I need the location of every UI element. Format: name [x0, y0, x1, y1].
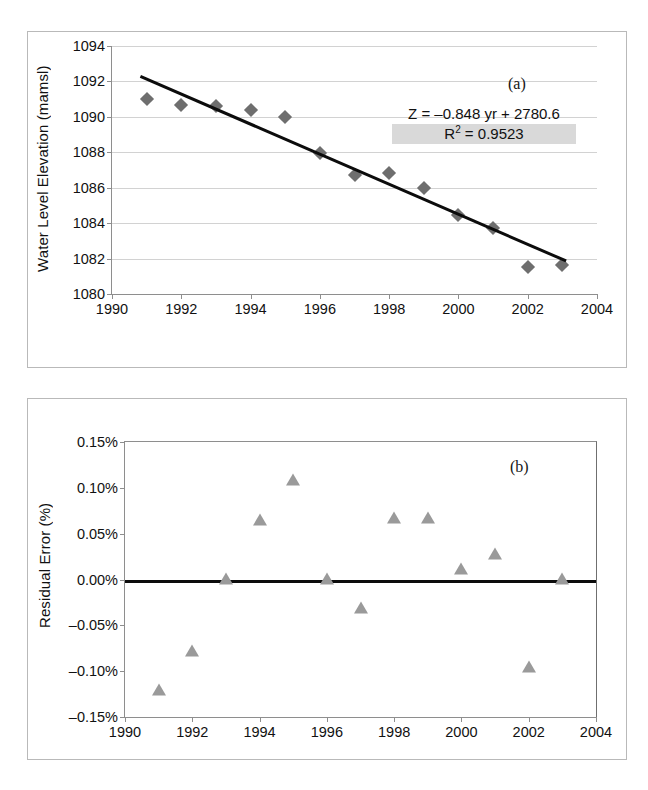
x-tick-mark: [597, 294, 598, 299]
x-tick-mark: [327, 717, 328, 722]
data-point: [522, 660, 536, 672]
data-point: [387, 512, 401, 524]
x-tick-label: 2000: [442, 301, 474, 317]
data-point: [219, 572, 233, 584]
y-tick-mark: [107, 188, 112, 189]
x-tick-mark: [192, 717, 193, 722]
data-point: [555, 572, 569, 584]
x-tick-mark: [528, 294, 529, 299]
y-tick-label: 0.00%: [77, 572, 118, 588]
data-point: [253, 513, 267, 525]
y-tick-label: 1088: [73, 144, 105, 160]
x-tick-mark: [112, 294, 113, 299]
y-tick-label: –0.05%: [69, 617, 118, 633]
x-tick-mark: [251, 294, 252, 299]
x-tick-mark: [394, 717, 395, 722]
data-point: [521, 260, 535, 274]
x-tick-label: 2004: [581, 301, 613, 317]
x-tick-label: 1998: [378, 724, 410, 740]
y-tick-label: 1084: [73, 215, 105, 231]
data-point: [354, 601, 368, 613]
regression-r-squared: R2 = 0.9523: [392, 124, 576, 144]
data-point: [185, 644, 199, 656]
panel-b-y-axis-title: Residual Error (%): [36, 440, 53, 690]
y-tick-mark: [120, 625, 125, 626]
y-tick-label: 1090: [73, 109, 105, 125]
data-point: [454, 563, 468, 575]
y-tick-label: 0.05%: [77, 526, 118, 542]
data-point: [488, 547, 502, 559]
panel-a-y-axis-title: Water Level Elevation (mamsl): [34, 44, 51, 294]
r-squared-value: = 0.9523: [461, 125, 524, 142]
data-point: [421, 512, 435, 524]
y-tick-label: –0.10%: [69, 663, 118, 679]
x-tick-label: 1992: [176, 724, 208, 740]
y-tick-mark: [107, 117, 112, 118]
y-tick-mark: [107, 223, 112, 224]
gridline: [112, 46, 597, 47]
y-tick-label: 1080: [73, 286, 105, 302]
data-point: [243, 103, 257, 117]
x-tick-label: 1994: [243, 724, 275, 740]
y-tick-mark: [107, 46, 112, 47]
regression-annotation: Z = –0.848 yr + 2780.6 R2 = 0.9523: [392, 104, 576, 144]
x-tick-mark: [461, 717, 462, 722]
y-tick-mark: [107, 259, 112, 260]
panel-a-label: (a): [508, 75, 526, 93]
x-tick-label: 2002: [512, 301, 544, 317]
y-tick-label: 1092: [73, 73, 105, 89]
x-tick-mark: [181, 294, 182, 299]
x-tick-mark: [320, 294, 321, 299]
x-tick-mark: [529, 717, 530, 722]
gridline: [112, 223, 597, 224]
y-tick-label: 0.15%: [77, 434, 118, 450]
gridline: [112, 259, 597, 260]
x-tick-mark: [596, 717, 597, 722]
figure-container: Water Level Elevation (mamsl) 1080108210…: [0, 0, 648, 790]
x-tick-label: 1996: [304, 301, 336, 317]
x-tick-label: 1992: [165, 301, 197, 317]
data-point: [417, 181, 431, 195]
data-point: [140, 92, 154, 106]
y-tick-label: 0.10%: [77, 480, 118, 496]
x-tick-mark: [125, 717, 126, 722]
data-point: [152, 684, 166, 696]
data-point: [174, 98, 188, 112]
data-point: [320, 572, 334, 584]
x-tick-label: 2000: [445, 724, 477, 740]
y-tick-mark: [107, 81, 112, 82]
y-tick-label: 1094: [73, 38, 105, 54]
y-tick-mark: [120, 488, 125, 489]
x-tick-label: 2004: [580, 724, 612, 740]
y-tick-label: 1082: [73, 251, 105, 267]
data-point: [286, 473, 300, 485]
x-tick-label: 1990: [109, 724, 141, 740]
x-tick-label: 1996: [311, 724, 343, 740]
x-tick-mark: [389, 294, 390, 299]
y-tick-label: –0.15%: [69, 709, 118, 725]
panel-b-zero-line: [125, 580, 596, 583]
gridline: [112, 152, 597, 153]
data-point: [382, 166, 396, 180]
x-tick-label: 1990: [96, 301, 128, 317]
y-tick-mark: [120, 534, 125, 535]
y-tick-mark: [120, 671, 125, 672]
y-tick-mark: [107, 152, 112, 153]
x-tick-mark: [260, 717, 261, 722]
r-squared-prefix: R: [444, 125, 455, 142]
x-tick-mark: [458, 294, 459, 299]
x-tick-label: 1994: [234, 301, 266, 317]
x-tick-label: 2002: [513, 724, 545, 740]
data-point: [278, 110, 292, 124]
y-tick-label: 1086: [73, 180, 105, 196]
panel-b-plot-area: –0.15%–0.10%–0.05%0.00%0.05%0.10%0.15% 1…: [124, 441, 597, 718]
gridline: [112, 188, 597, 189]
y-tick-mark: [120, 442, 125, 443]
x-tick-label: 1998: [373, 301, 405, 317]
panel-b-label: (b): [510, 458, 529, 476]
regression-equation: Z = –0.848 yr + 2780.6: [408, 105, 560, 122]
